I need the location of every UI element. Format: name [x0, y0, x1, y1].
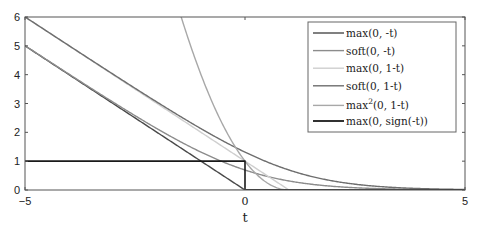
x-tick-label: 5: [462, 195, 468, 207]
series-line-5: [25, 161, 465, 190]
legend-label: max2(0, 1-t): [346, 97, 409, 111]
legend-label: max(0, 1-t): [346, 62, 404, 74]
x-tick-label: −5: [19, 195, 32, 207]
legend-label: max(0, -t): [346, 27, 397, 39]
y-tick-label: 6: [14, 11, 20, 23]
chart: 0123456−505 t max(0, -t)soft(0, -t)max(0…: [0, 0, 486, 233]
legend-label: soft(0, -t): [346, 45, 395, 57]
y-tick-label: 1: [14, 155, 20, 167]
y-tick-label: 3: [14, 98, 20, 110]
legend-label: soft(0, 1-t): [346, 80, 402, 92]
x-tick-label: 0: [242, 195, 249, 208]
y-tick-label: 5: [14, 40, 20, 52]
y-tick-label: 4: [14, 69, 20, 81]
y-tick-label: 2: [14, 126, 20, 138]
legend: max(0, -t)soft(0, -t)max(0, 1-t)soft(0, …: [308, 22, 456, 132]
x-axis-label: t: [242, 210, 248, 225]
legend-label: max(0, sign(-t)): [346, 115, 428, 127]
